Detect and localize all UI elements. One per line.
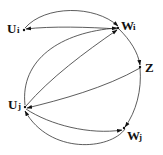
- node-uj-sub: j: [17, 101, 21, 111]
- node-ui-sub: i: [17, 25, 20, 35]
- edge-ui-to-wi: [25, 10, 118, 28]
- node-uj-label: U j: [8, 97, 21, 112]
- node-z-main: Z: [145, 60, 154, 75]
- edge-wj-to-uj: [25, 111, 125, 145]
- node-z-label: Z: [145, 60, 154, 75]
- node-ui-main: U: [7, 21, 17, 36]
- graph-diagram: U i W i Z U j W j: [0, 0, 163, 155]
- node-wi-dot: [117, 27, 119, 29]
- edge-z-to-uj: [27, 68, 140, 108]
- edge-uj-to-wj: [26, 109, 122, 131]
- edge-wi-to-ui: [26, 27, 117, 29]
- node-wj-sub: j: [138, 132, 142, 142]
- node-z-dot: [139, 66, 141, 68]
- edge-wi-to-z: [119, 29, 140, 65]
- edge-z-to-wj: [125, 68, 140, 127]
- node-wj-dot: [123, 127, 125, 129]
- node-wi-label: W i: [121, 18, 136, 33]
- node-ui-label: U i: [7, 21, 20, 36]
- node-wj-label: W j: [127, 128, 142, 143]
- node-wi-sub: i: [133, 22, 136, 32]
- node-uj-dot: [24, 106, 26, 108]
- node-uj-main: U: [8, 97, 18, 112]
- node-ui-dot: [23, 29, 25, 31]
- edge-uj-to-wi-straight: [26, 30, 117, 106]
